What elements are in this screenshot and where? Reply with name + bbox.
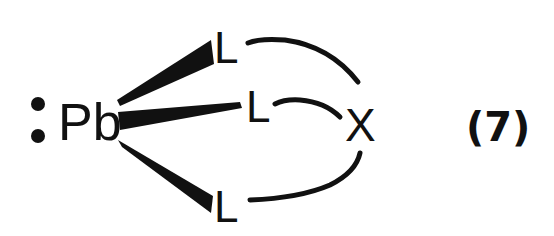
wedge-bond-bottom (118, 140, 213, 213)
ligand-label-middle: L (246, 82, 270, 131)
lone-pair (31, 97, 45, 143)
chemical-structure-diagram: Pb L L L X (7) (0, 0, 554, 236)
central-atom-label: Pb (58, 93, 122, 151)
equation-number: (7) (466, 104, 530, 150)
curve-top (248, 39, 358, 82)
curve-middle (275, 100, 340, 117)
ligand-label-top: L (214, 23, 238, 72)
wedge-bond-middle (118, 102, 242, 130)
wedge-bond-top (117, 40, 214, 106)
curve-bottom (250, 153, 360, 200)
ligand-label-bottom: L (214, 182, 238, 231)
bridge-atom-label: X (345, 99, 376, 151)
